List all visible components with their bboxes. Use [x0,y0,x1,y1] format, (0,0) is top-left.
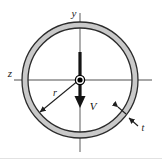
tube-cross-section-diagram: r t V y z [0,0,162,160]
thickness-arrow-lower [129,118,138,126]
y-axis-label: y [71,7,77,19]
radius-dimension: r [40,80,79,112]
radius-label: r [53,87,57,98]
z-axis-label: z [7,67,13,79]
centroid-inner-dot [77,77,82,82]
shear-force-label: V [90,100,98,112]
shear-force-arrowhead [75,96,86,108]
radius-leader-line [40,80,79,112]
figure-container: r t V y z [0,0,162,160]
thickness-label: t [142,122,145,133]
centroid-marker [75,75,84,84]
